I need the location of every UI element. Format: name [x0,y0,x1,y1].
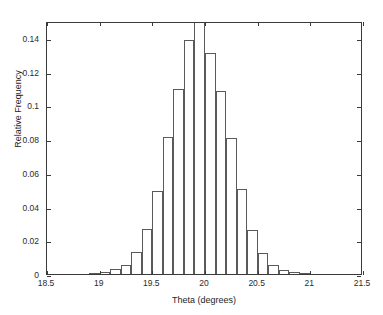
y-axis-label: Relative Frequency [13,39,23,179]
y-axis-tick-labels: 00.020.040.060.080.10.120.14 [0,0,383,315]
x-axis-label: Theta (degrees) [46,295,362,305]
y-tick-label: 0 [0,270,39,280]
histogram-figure: 18.51919.52020.52121.5 00.020.040.060.08… [0,0,383,315]
y-tick-label: 0.02 [0,236,39,246]
y-tick-label: 0.04 [0,203,39,213]
